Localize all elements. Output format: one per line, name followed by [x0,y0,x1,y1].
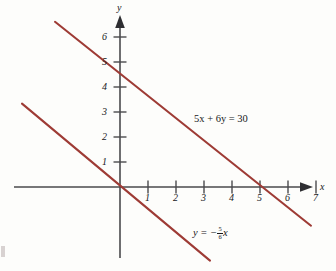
plot-canvas [0,0,336,271]
equation-line2-rhs: x [223,227,228,238]
y-tick-label-4: 4 [102,81,107,92]
x-axis-arrowhead [300,182,313,192]
y-axis-arrowhead [115,15,125,28]
fraction-numerator: 5 [217,226,222,233]
page-edge-artifact [1,246,5,257]
y-tick-label-1: 1 [102,156,107,167]
equation-label-line2: y = −56x [193,226,228,240]
y-tick-label-5: 5 [102,56,107,67]
x-tick-label-5: 5 [257,192,262,203]
fraction-denominator: 6 [217,233,222,241]
line-y-neg-five-sixths-x [22,104,210,261]
y-tick-label-6: 6 [102,31,107,42]
x-tick-label-2: 2 [173,192,178,203]
y-axis-label: y [117,2,121,13]
equation-line2-lhs: y = − [193,227,217,238]
y-tick-label-2: 2 [102,131,107,142]
x-tick-label-3: 3 [201,192,206,203]
x-axis-label: x [320,181,324,192]
x-tick-label-7: 7 [313,192,318,203]
fraction-five-sixths: 56 [217,226,222,240]
x-tick-label-1: 1 [145,192,150,203]
line-5x-6y-30 [55,22,311,226]
equation-label-line1: 5x + 6y = 30 [194,113,248,124]
graph-figure: 1 2 3 4 5 6 7 1 2 3 4 5 6 x y 5x + 6y = … [0,0,336,271]
x-tick-label-4: 4 [229,192,234,203]
y-tick-label-3: 3 [102,106,107,117]
x-tick-label-6: 6 [285,192,290,203]
